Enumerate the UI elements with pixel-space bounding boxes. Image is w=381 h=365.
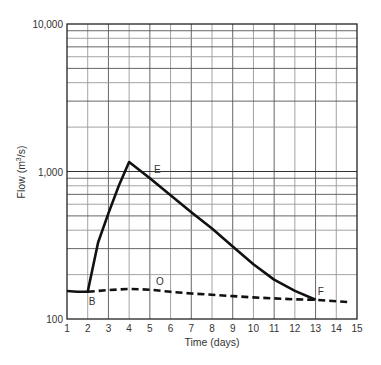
x-tick-label: 1 [64, 323, 70, 334]
x-tick-label: 8 [209, 323, 215, 334]
x-tick-label: 4 [126, 323, 132, 334]
y-tick-label: 100 [46, 314, 63, 325]
x-axis-label: Time (days) [184, 336, 239, 348]
x-tick-label: 14 [331, 323, 343, 334]
x-tick-label: 11 [269, 323, 280, 334]
x-tick-label: 12 [289, 323, 301, 334]
baseflow-line [88, 289, 349, 302]
series-lines [67, 162, 349, 302]
x-tick-label: 13 [310, 323, 322, 334]
x-tick-label: 3 [106, 323, 112, 334]
annotation-o: O [156, 276, 164, 287]
annotation-f: F [318, 286, 324, 297]
hydrograph-chart: 123456789101112131415 1001,00010,000 BEO… [0, 0, 381, 365]
y-tick-label: 10,000 [32, 19, 63, 30]
x-tick-label: 10 [248, 323, 260, 334]
point-annotations: BEOF [89, 164, 324, 307]
x-tick-label: 6 [168, 323, 174, 334]
x-tick-label: 2 [85, 323, 91, 334]
x-tick-label: 15 [351, 323, 363, 334]
x-tick-label: 7 [189, 323, 195, 334]
annotation-e: E [154, 164, 161, 175]
y-tick-labels: 1001,00010,000 [32, 19, 63, 325]
x-tick-label: 5 [147, 323, 153, 334]
y-tick-label: 1,000 [38, 167, 63, 178]
y-axis-label: Flow (m3/s) [15, 146, 27, 199]
x-tick-labels: 123456789101112131415 [64, 323, 363, 334]
grid [67, 24, 357, 319]
annotation-b: B [89, 296, 96, 307]
x-tick-label: 9 [230, 323, 236, 334]
